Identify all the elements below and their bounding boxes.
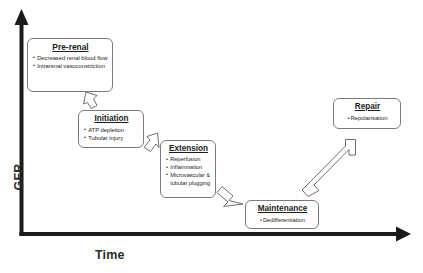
stage-box-maintenance: Maintenance Dedifferentiation (245, 200, 319, 229)
stage-title-repair: Repair (339, 102, 396, 112)
y-axis-label: GFR (12, 152, 26, 202)
stage-box-initiation: Initiation ATP depletion Tubular injury (78, 110, 144, 148)
stage-title-extension: Extension (166, 144, 211, 154)
caption-strip (0, 266, 423, 273)
list-item: Dedifferentiation (251, 216, 314, 225)
list-item: Reperfusion (166, 156, 211, 164)
list-item: Intrarenal vasoconstriction (33, 62, 108, 70)
stage-items-extension: Reperfusion Inflammation Microvascular &… (166, 156, 211, 188)
list-item: Tubular injury (84, 134, 139, 142)
x-axis (20, 227, 412, 242)
list-item: Inflammation (166, 164, 211, 172)
stage-items-initiation: ATP depletion Tubular injury (84, 126, 139, 142)
stage-items-repair: Repolarisation (339, 114, 396, 123)
stage-box-repair: Repair Repolarisation (333, 98, 401, 129)
list-item: Decreased renal blood flow (33, 54, 108, 62)
stage-title-initiation: Initiation (84, 114, 139, 124)
x-axis-label: Time (95, 248, 125, 262)
figure-canvas: GFR Time Pre-renal Decreased renal blood… (0, 0, 423, 273)
list-item: Repolarisation (339, 114, 396, 123)
stage-items-prerenal: Decreased renal blood flow Intrarenal va… (33, 54, 108, 70)
stage-box-extension: Extension Reperfusion Inflammation Micro… (160, 140, 216, 198)
list-item: ATP depletion (84, 126, 139, 134)
stage-title-maintenance: Maintenance (251, 204, 314, 214)
list-item: Microvascular & tubular plugging (166, 172, 211, 188)
stage-items-maintenance: Dedifferentiation (251, 216, 314, 225)
stage-box-prerenal: Pre-renal Decreased renal blood flow Int… (27, 38, 113, 92)
stage-title-prerenal: Pre-renal (33, 42, 108, 53)
